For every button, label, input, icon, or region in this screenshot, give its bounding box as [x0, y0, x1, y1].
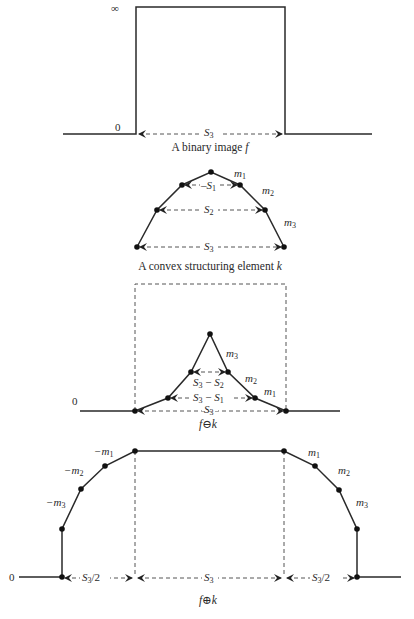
- m3-label: m3: [356, 496, 368, 510]
- binary-image-panel: ∞ 0 S3 A binary image f: [63, 2, 372, 154]
- m2-label: m2: [245, 372, 257, 386]
- s3-minus-s2-label: S3 − S2: [193, 376, 224, 390]
- infinity-label: ∞: [111, 2, 119, 14]
- binary-image-curve: [63, 7, 372, 134]
- structuring-element-caption: A convex structuring element k: [138, 260, 283, 273]
- m3-label: m3: [284, 216, 296, 230]
- vertex-dots: [59, 448, 360, 580]
- m1-label: m1: [234, 167, 246, 181]
- m1-label: m1: [264, 385, 276, 399]
- morphology-figure: ∞ 0 S3 A binary image f –S1 S2 S3: [0, 0, 414, 619]
- m1-label: m1: [308, 446, 320, 460]
- right-half-s3-label: S3/2: [312, 571, 330, 585]
- binary-image-caption: A binary image f: [172, 141, 251, 154]
- m3-label: m3: [226, 347, 238, 361]
- dilation-caption: f⊕k: [199, 594, 218, 607]
- structuring-element-panel: –S1 S2 S3 m1 m2 m3 A convex structuring …: [134, 167, 296, 273]
- zero-label: 0: [72, 395, 78, 407]
- neg-m1-label: −m1: [94, 445, 113, 459]
- dilation-panel: 0 −m1 −m2 −m3 m1 m2 m3 S3/2 S3 S3/2 f⊕k: [9, 445, 401, 607]
- erosion-panel: 0 S3 − S2 S3 − S1 S3 m3 m2 m1 f⊖k: [72, 284, 340, 431]
- neg-m2-label: −m2: [64, 464, 83, 478]
- zero-label: 0: [9, 571, 15, 583]
- zero-label: 0: [115, 121, 121, 133]
- m2-label: m2: [262, 184, 274, 198]
- left-half-s3-label: S3/2: [82, 571, 100, 585]
- neg-m3-label: −m3: [46, 496, 65, 510]
- m2-label: m2: [338, 464, 350, 478]
- erosion-caption: f⊖k: [199, 418, 218, 431]
